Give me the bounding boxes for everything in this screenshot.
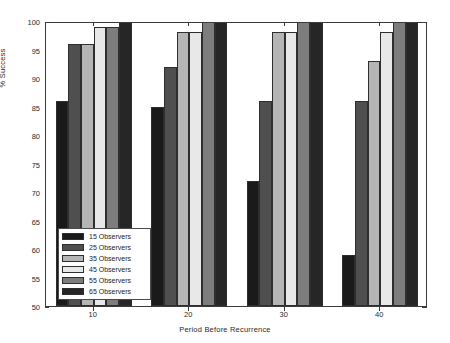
x-tick-mark-top bbox=[284, 22, 285, 26]
legend-item-label: 15 Observers bbox=[89, 232, 131, 241]
x-tick-mark bbox=[379, 307, 380, 311]
bar bbox=[177, 32, 190, 306]
y-tick-label: 85 bbox=[0, 103, 45, 112]
bar bbox=[297, 22, 310, 306]
legend-item[interactable]: 25 Observers bbox=[62, 242, 147, 253]
legend-swatch bbox=[62, 266, 84, 273]
bar bbox=[164, 67, 177, 306]
y-tick-label: 55 bbox=[0, 274, 45, 283]
bar bbox=[247, 181, 260, 306]
x-tick-mark-top bbox=[188, 22, 189, 26]
y-tick-label: 80 bbox=[0, 132, 45, 141]
x-tick-mark-top bbox=[379, 22, 380, 26]
bar bbox=[285, 32, 298, 306]
legend-item-label: 25 Observers bbox=[89, 243, 131, 252]
y-tick-label: 65 bbox=[0, 217, 45, 226]
y-tick-label: 70 bbox=[0, 189, 45, 198]
x-tick-label: 30 bbox=[280, 310, 288, 319]
bar bbox=[342, 255, 355, 306]
bar bbox=[310, 22, 323, 306]
bar-chart-figure: % Success 50556065707580859095100 102030… bbox=[0, 0, 450, 343]
legend-item[interactable]: 15 Observers bbox=[62, 231, 147, 242]
legend-item-label: 65 Observers bbox=[89, 287, 131, 296]
bar bbox=[215, 22, 228, 306]
bar bbox=[355, 101, 368, 306]
bar bbox=[368, 61, 381, 306]
legend: 15 Observers25 Observers35 Observers45 O… bbox=[58, 228, 151, 300]
bar bbox=[272, 32, 285, 306]
bar bbox=[151, 107, 164, 307]
legend-swatch bbox=[62, 288, 84, 295]
x-tick-label: 20 bbox=[184, 310, 192, 319]
legend-item[interactable]: 45 Observers bbox=[62, 264, 147, 275]
y-tick-label: 100 bbox=[0, 18, 45, 27]
y-tick-label: 50 bbox=[0, 303, 45, 312]
x-tick-mark bbox=[93, 307, 94, 311]
legend-item-label: 45 Observers bbox=[89, 265, 131, 274]
x-tick-mark-top bbox=[93, 22, 94, 26]
legend-item[interactable]: 35 Observers bbox=[62, 253, 147, 264]
bar bbox=[406, 22, 419, 306]
x-tick-mark bbox=[188, 307, 189, 311]
legend-item-label: 35 Observers bbox=[89, 254, 131, 263]
legend-swatch bbox=[62, 277, 84, 284]
x-axis-label: Period Before Recurrence bbox=[0, 325, 450, 334]
legend-item[interactable]: 55 Observers bbox=[62, 275, 147, 286]
legend-swatch bbox=[62, 244, 84, 251]
y-tick-mark-right bbox=[422, 307, 427, 308]
legend-swatch bbox=[62, 255, 84, 262]
y-tick-mark bbox=[45, 307, 49, 308]
bar bbox=[259, 101, 272, 306]
y-tick-label: 90 bbox=[0, 75, 45, 84]
x-tick-mark bbox=[284, 307, 285, 311]
bar bbox=[380, 32, 393, 306]
bar bbox=[393, 22, 406, 306]
legend-swatch bbox=[62, 233, 84, 240]
legend-item[interactable]: 65 Observers bbox=[62, 286, 147, 297]
x-tick-label: 40 bbox=[375, 310, 383, 319]
y-tick-label: 60 bbox=[0, 246, 45, 255]
x-tick-label: 10 bbox=[89, 310, 97, 319]
bar bbox=[202, 22, 215, 306]
y-tick-label: 95 bbox=[0, 46, 45, 55]
y-tick-label: 75 bbox=[0, 160, 45, 169]
legend-item-label: 55 Observers bbox=[89, 276, 131, 285]
bar bbox=[189, 32, 202, 306]
